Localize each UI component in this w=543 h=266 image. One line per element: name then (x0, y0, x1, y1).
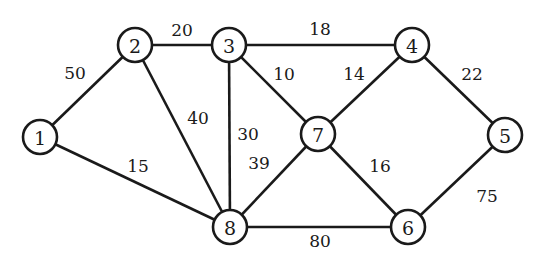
edge-weight-2-8: 40 (187, 108, 209, 128)
edge-7-8 (230, 134, 318, 227)
node-label: 8 (224, 217, 236, 239)
edge-weight-7-8: 39 (248, 153, 270, 173)
node-5: 5 (488, 118, 522, 152)
node-label: 2 (129, 35, 141, 57)
node-7: 7 (301, 117, 335, 151)
edge-5-6 (408, 135, 505, 227)
edge-weight-1-2: 50 (64, 63, 86, 83)
node-label: 5 (499, 125, 511, 147)
edge-weight-7-6: 16 (369, 156, 391, 176)
edge-weight-4-5: 22 (461, 64, 483, 84)
node-label: 4 (406, 35, 418, 57)
node-4: 4 (395, 28, 429, 62)
node-6: 6 (391, 210, 425, 244)
node-label: 3 (223, 35, 235, 57)
node-2: 2 (118, 28, 152, 62)
graph-diagram: 50152040181030142275163980 12345678 (0, 0, 543, 266)
edge-weight-8-6: 80 (309, 231, 331, 251)
nodes-layer: 12345678 (23, 28, 522, 244)
edge-1-8 (40, 137, 230, 227)
node-label: 7 (312, 124, 324, 146)
node-1: 1 (23, 120, 57, 154)
edge-4-5 (412, 45, 505, 135)
edge-weight-3-4: 18 (309, 19, 331, 39)
node-3: 3 (212, 28, 246, 62)
edge-weight-5-6: 75 (476, 186, 498, 206)
node-label: 1 (34, 127, 46, 149)
edge-7-6 (318, 134, 408, 227)
edge-4-7 (318, 45, 412, 134)
edge-weight-3-7: 10 (273, 64, 295, 84)
node-label: 6 (402, 217, 414, 239)
edge-3-7 (229, 45, 318, 134)
edge-weight-3-8: 30 (237, 124, 259, 144)
edge-1-2 (40, 45, 135, 137)
edge-weight-1-8: 15 (127, 156, 149, 176)
node-8: 8 (213, 210, 247, 244)
edge-weight-4-7: 14 (343, 64, 365, 84)
edge-weight-2-3: 20 (171, 20, 193, 40)
edge-2-8 (135, 45, 230, 227)
graph-canvas: 50152040181030142275163980 12345678 (0, 0, 543, 266)
edge-3-8 (229, 45, 230, 227)
